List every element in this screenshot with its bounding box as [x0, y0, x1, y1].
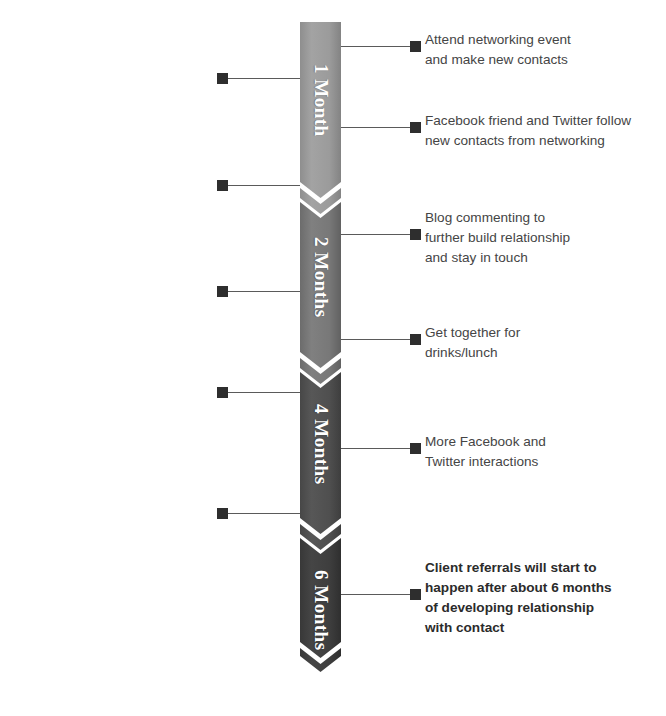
- node-marker: [410, 443, 421, 454]
- node-marker: [410, 122, 421, 133]
- right-node-label: Get together for drinks/lunch: [425, 323, 663, 363]
- timeline-segment-4: [300, 538, 341, 672]
- connector-line: [341, 339, 413, 340]
- node-marker: [217, 508, 228, 519]
- connector-line: [341, 234, 413, 235]
- node-marker: [217, 73, 228, 84]
- connector-line: [227, 513, 300, 514]
- connector-line: [341, 448, 413, 449]
- right-node-label: Client referrals will start to happen af…: [425, 558, 663, 638]
- right-node-label: Facebook friend and Twitter follow new c…: [425, 111, 663, 151]
- connector-line: [227, 78, 300, 79]
- node-marker: [410, 41, 421, 52]
- timeline-segment-3: [300, 372, 341, 550]
- connector-line: [227, 291, 300, 292]
- connector-line: [227, 392, 300, 393]
- right-node-label: Blog commenting to further build relatio…: [425, 208, 663, 268]
- right-node-label: More Facebook and Twitter interactions: [425, 432, 663, 472]
- node-marker: [217, 286, 228, 297]
- connector-line: [341, 594, 413, 595]
- node-marker: [217, 387, 228, 398]
- diagram-canvas: 1 Month 2 Months 4 Months 6 Months Follo…: [0, 0, 666, 716]
- node-marker: [410, 589, 421, 600]
- timeline-segment-1: [300, 22, 341, 214]
- node-marker: [410, 334, 421, 345]
- timeline-segment-2: [300, 202, 341, 384]
- connector-line: [227, 185, 300, 186]
- timeline-bar: [300, 22, 341, 672]
- node-marker: [217, 180, 228, 191]
- right-node-label: Attend networking event and make new con…: [425, 30, 663, 70]
- connector-line: [341, 127, 413, 128]
- node-marker: [410, 229, 421, 240]
- connector-line: [341, 46, 413, 47]
